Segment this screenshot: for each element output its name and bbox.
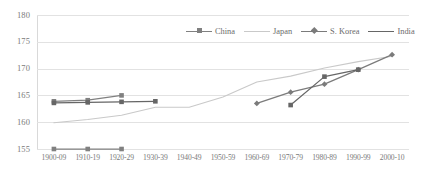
legend-label: S. Korea xyxy=(330,27,359,36)
legend-item-china[interactable]: China xyxy=(186,25,235,37)
legend-swatch-icon xyxy=(368,26,394,36)
legend-swatch-icon xyxy=(186,26,212,36)
x-axis-tick-label: 1990-99 xyxy=(341,154,375,162)
legend-item-s-korea[interactable]: S. Korea xyxy=(301,25,359,37)
y-axis-line xyxy=(37,15,38,149)
legend-swatch-icon xyxy=(244,26,270,36)
line-chart: 180175170165160155 1900-091910-191920-29… xyxy=(0,0,424,174)
gridline xyxy=(37,122,409,123)
x-axis-tick-label: 1910-19 xyxy=(71,154,105,162)
y-axis-tick-label: 175 xyxy=(0,37,30,46)
legend-item-japan[interactable]: Japan xyxy=(244,25,292,37)
y-axis-tick-label: 165 xyxy=(0,91,30,100)
y-axis-tick-label: 155 xyxy=(0,145,30,154)
legend-swatch-icon xyxy=(301,26,327,36)
legend-label: Japan xyxy=(273,27,292,36)
x-axis-tick-label: 1920-29 xyxy=(105,154,139,162)
x-axis-tick-label: 1950-59 xyxy=(206,154,240,162)
x-axis-tick-label: 1940-49 xyxy=(172,154,206,162)
x-axis-tick-label: 2000-10 xyxy=(375,154,409,162)
x-axis-tick-label: 1930-39 xyxy=(138,154,172,162)
gridline xyxy=(37,42,409,43)
y-axis-tick-label: 160 xyxy=(0,118,30,127)
x-axis-tick-label: 1900-09 xyxy=(37,154,71,162)
gridline xyxy=(37,95,409,96)
legend-item-india[interactable]: India xyxy=(368,25,414,37)
x-axis-tick-label: 1980-89 xyxy=(308,154,342,162)
x-axis-tick-label: 1960-69 xyxy=(240,154,274,162)
y-axis-tick-label: 180 xyxy=(0,11,30,20)
chart-legend: ChinaJapanS. KoreaIndia xyxy=(186,25,424,37)
y-axis-tick-label: 170 xyxy=(0,64,30,73)
gridline xyxy=(37,15,409,16)
x-axis-tick-label: 1970-79 xyxy=(274,154,308,162)
gridline xyxy=(37,149,409,150)
legend-label: China xyxy=(215,27,235,36)
gridline xyxy=(37,69,409,70)
legend-label: India xyxy=(397,27,414,36)
